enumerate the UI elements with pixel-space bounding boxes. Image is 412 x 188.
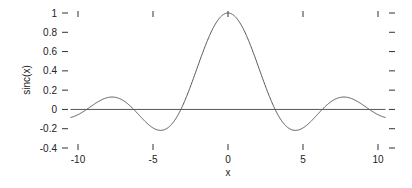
y-tick-label: 0 — [51, 104, 57, 115]
y-tick-label: 0.6 — [43, 46, 57, 57]
y-tick-label: 0.8 — [43, 27, 57, 38]
sinc-chart: -0.4-0.200.20.40.60.81 -10-50510 x sinc(… — [0, 0, 412, 188]
x-tick-label: 5 — [300, 154, 306, 165]
y-axis-ticks-left — [62, 13, 68, 148]
x-axis-ticks-bottom — [78, 144, 378, 150]
y-tick-label: 1 — [51, 8, 57, 19]
x-axis-tick-labels: -10-50510 — [71, 154, 384, 165]
x-axis-label: x — [226, 167, 231, 178]
y-axis-tick-labels: -0.4-0.200.20.40.60.81 — [40, 8, 58, 154]
y-tick-label: -0.4 — [40, 143, 58, 154]
y-tick-label: 0.2 — [43, 85, 57, 96]
y-tick-label: 0.4 — [43, 65, 57, 76]
sinc-curve — [71, 13, 386, 130]
x-axis-ticks-top — [78, 11, 378, 17]
x-tick-label: -5 — [149, 154, 158, 165]
y-tick-label: -0.2 — [40, 123, 58, 134]
y-axis-ticks-right — [389, 13, 395, 148]
x-tick-label: -10 — [71, 154, 86, 165]
x-tick-label: 0 — [225, 154, 231, 165]
x-tick-label: 10 — [372, 154, 384, 165]
y-axis-label: sinc(x) — [21, 65, 32, 94]
